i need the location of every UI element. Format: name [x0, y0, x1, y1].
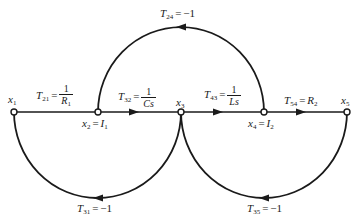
graph-edges: [0, 0, 359, 222]
arrow-icon-t54: [296, 109, 306, 116]
arrow-icon-t31: [93, 195, 103, 202]
arrow-icon-t32: [129, 109, 139, 116]
node-label-x2: x2=I1: [82, 118, 108, 131]
node-x1: [11, 109, 17, 115]
node-label-x1: x1: [8, 94, 16, 107]
signal-flow-graph: x1 x2=I1 x3 x4=I2 x5 T21=1R1 T32=1Cs T43…: [0, 0, 359, 222]
edge-label-t24: T24=−1: [160, 8, 195, 21]
edge-label-t21: T21=1R1: [36, 83, 73, 110]
edge-label-t35: T35=−1: [247, 203, 282, 216]
edge-label-t32: T32=1Cs: [118, 86, 156, 109]
node-label-x5: x5: [341, 95, 349, 108]
edge-label-t31: T31=−1: [77, 203, 112, 216]
node-x2: [95, 109, 101, 115]
arrow-icon-t24: [176, 24, 186, 31]
edge-label-t43: T43=1Ls: [204, 84, 241, 107]
arrow-icon-t35: [259, 195, 269, 202]
node-x5: [344, 109, 350, 115]
node-label-x3: x3: [176, 97, 184, 110]
arrow-icon-t43: [213, 109, 223, 116]
node-label-x4: x4=I2: [248, 118, 274, 131]
edge-label-t54: T54=R2: [284, 95, 318, 108]
node-x4: [261, 109, 267, 115]
